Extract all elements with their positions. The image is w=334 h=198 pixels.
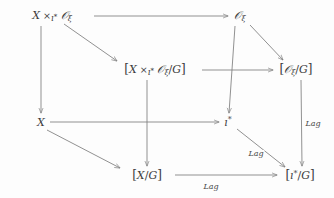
arrow-orbit-to-orbitquotient [250, 25, 283, 60]
node-x-quotient: [X/G] [131, 169, 164, 181]
node-space-x: X [36, 117, 47, 128]
commutative-diagram: X ×𝚤* 𝒪ξ 𝒪ξ [X ×𝚤* 𝒪ξ/G] [𝒪ξ/G] X 𝚤* [X/… [0, 0, 334, 198]
arrow-dualalgebra-to-dualquotient [237, 129, 285, 167]
node-coadjoint-orbit: 𝒪ξ [233, 10, 247, 23]
arrow-fiberproduct-to-quotient [64, 24, 117, 61]
edge-label-lag-diagonal: Lag [247, 150, 264, 158]
edge-label-lag-bottom: Lag [202, 183, 219, 191]
edge-label-lag-right-vertical: Lag [304, 120, 321, 128]
arrow-orbit-to-dualalgebra [229, 26, 235, 113]
node-dual-lie-algebra: 𝚤* [223, 116, 233, 127]
node-fiber-product-quotient: [X ×𝚤* 𝒪ξ/G] [123, 63, 188, 77]
node-orbit-quotient: [𝒪ξ/G] [278, 63, 314, 77]
node-dual-lie-algebra-quotient: [𝚤*/G] [284, 169, 316, 181]
arrow-orbitquotient-to-dualquotient [301, 80, 302, 166]
node-fiber-product: X ×𝚤* 𝒪ξ [31, 10, 74, 23]
arrow-x-to-xquotient [47, 130, 120, 168]
